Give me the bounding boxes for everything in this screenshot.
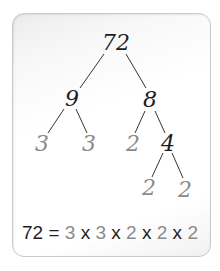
factor-4: 2 [157,222,168,243]
factor-5: 2 [187,222,198,243]
edge-9-3a [48,109,64,133]
edge-72-8 [126,54,146,88]
node-3-left: 3 [35,133,49,155]
times-3: x [142,222,152,243]
node-2-b: 2 [142,177,156,199]
factorization-equation: 72 = 3 x 3 x 2 x 2 x 2 [0,222,220,244]
times-4: x [173,222,183,243]
node-4: 4 [161,133,175,155]
equation-lhs: 72 = [22,222,60,243]
node-2-a: 2 [126,133,140,155]
edge-72-9 [80,54,104,88]
times-2: x [111,222,121,243]
edge-4-2b [152,153,163,177]
factor-1: 3 [65,222,76,243]
node-8: 8 [143,89,157,111]
times-1: x [81,222,91,243]
node-2-c: 2 [178,179,192,201]
factor-2: 3 [95,222,106,243]
edge-8-4 [155,111,165,133]
edge-9-3b [76,109,87,133]
node-9: 9 [65,88,79,110]
edge-4-2c [172,153,183,178]
factor-3: 2 [126,222,137,243]
node-72: 72 [102,32,130,54]
node-3-right: 3 [82,133,96,155]
edge-8-2a [135,111,145,133]
